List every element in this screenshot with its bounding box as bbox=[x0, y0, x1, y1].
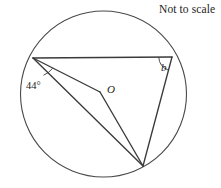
angle-44-label: 44° bbox=[26, 81, 41, 92]
geometry-figure: Not to scale 44° b O bbox=[0, 0, 221, 188]
not-to-scale-note: Not to scale bbox=[159, 4, 215, 16]
chord-bc bbox=[143, 57, 172, 166]
chord-ab bbox=[33, 57, 172, 58]
radius-ao bbox=[33, 58, 100, 92]
radius-oc bbox=[100, 92, 143, 166]
chord-ac bbox=[33, 58, 143, 166]
center-point-label: O bbox=[107, 84, 115, 95]
angle-b-label: b bbox=[161, 62, 167, 73]
